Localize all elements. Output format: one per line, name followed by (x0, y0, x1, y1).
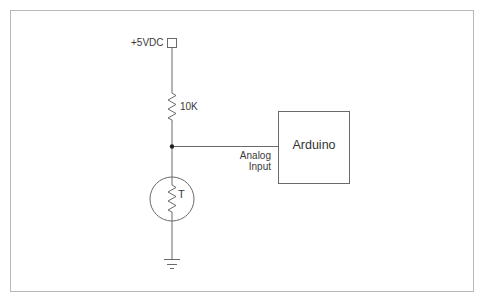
thermistor-resistor-icon (168, 177, 176, 221)
analog-label-line2: Input (232, 161, 271, 172)
power-terminal-icon (168, 39, 177, 48)
analog-label-line1: Analog (232, 150, 271, 161)
thermistor-label: T (178, 189, 185, 200)
arduino-block: Arduino (278, 111, 350, 184)
analog-input-label: Analog Input (232, 150, 271, 172)
ground-icon (164, 260, 180, 269)
power-label: +5VDC (131, 37, 164, 48)
circuit-schematic (0, 0, 483, 297)
resistor-label: 10K (180, 101, 198, 112)
junction-dot-icon (170, 144, 174, 148)
resistor-icon (168, 93, 176, 120)
arduino-label: Arduino (292, 138, 335, 152)
